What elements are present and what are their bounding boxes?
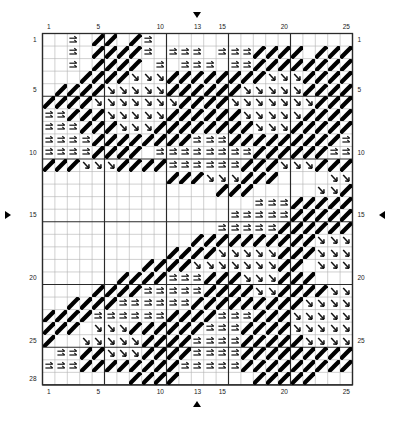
thick-diagonal-bar-symbol: [328, 222, 340, 235]
thick-diagonal-bar-symbol: [191, 322, 203, 335]
diagonal-down-right-arrow-symbol: [216, 172, 228, 185]
diagonal-down-right-arrow-symbol: [229, 172, 241, 185]
thick-diagonal-bar-symbol: [204, 285, 216, 298]
row-label-left: 25: [21, 338, 37, 345]
diagonal-down-right-arrow-symbol: [117, 347, 129, 360]
col-label-bottom: 1: [41, 389, 57, 396]
thick-diagonal-bar-symbol: [67, 84, 79, 97]
thick-diagonal-bar-symbol: [80, 347, 92, 360]
thick-diagonal-bar-symbol: [291, 347, 303, 360]
row-label-right: 10: [358, 150, 374, 157]
thick-diagonal-bar-symbol: [253, 360, 265, 373]
double-right-arrow-symbol: [154, 310, 166, 323]
diagonal-down-right-arrow-symbol: [340, 285, 352, 298]
thick-diagonal-bar-symbol: [67, 322, 79, 335]
thick-diagonal-bar-symbol: [241, 335, 253, 348]
thick-diagonal-bar-symbol: [278, 247, 290, 260]
double-right-arrow-symbol: [216, 335, 228, 348]
thick-diagonal-bar-symbol: [315, 222, 327, 235]
diagonal-down-right-arrow-symbol: [253, 96, 265, 109]
double-right-arrow-symbol: [117, 297, 129, 310]
double-right-arrow-symbol: [179, 285, 191, 298]
thick-diagonal-bar-symbol: [105, 297, 117, 310]
thick-diagonal-bar-symbol: [129, 285, 141, 298]
thick-diagonal-bar-symbol: [278, 146, 290, 159]
double-right-arrow-symbol: [55, 146, 67, 159]
thick-diagonal-bar-symbol: [253, 297, 265, 310]
thick-diagonal-bar-symbol: [303, 71, 315, 84]
thick-diagonal-bar-symbol: [129, 372, 141, 385]
thick-diagonal-bar-symbol: [80, 360, 92, 373]
diagonal-down-right-arrow-symbol: [253, 121, 265, 134]
thick-diagonal-bar-symbol: [167, 134, 179, 147]
double-right-arrow-symbol: [43, 109, 55, 122]
thick-diagonal-bar-symbol: [241, 347, 253, 360]
diagonal-down-right-arrow-symbol: [142, 84, 154, 97]
thick-diagonal-bar-symbol: [117, 146, 129, 159]
col-label-top: 13: [190, 24, 206, 31]
thick-diagonal-bar-symbol: [105, 34, 117, 47]
thick-diagonal-bar-symbol: [291, 297, 303, 310]
double-right-arrow-symbol: [191, 59, 203, 72]
double-right-arrow-symbol: [229, 335, 241, 348]
thick-diagonal-bar-symbol: [291, 247, 303, 260]
diagonal-down-right-arrow-symbol: [229, 96, 241, 109]
thick-diagonal-bar-symbol: [340, 347, 352, 360]
thick-diagonal-bar-symbol: [241, 360, 253, 373]
double-right-arrow-symbol: [179, 59, 191, 72]
thick-diagonal-bar-symbol: [117, 71, 129, 84]
diagonal-down-right-arrow-symbol: [266, 84, 278, 97]
diagonal-down-right-arrow-symbol: [117, 335, 129, 348]
thick-diagonal-bar-symbol: [241, 297, 253, 310]
thick-diagonal-bar-symbol: [105, 71, 117, 84]
double-right-arrow-symbol: [55, 134, 67, 147]
diagonal-down-right-arrow-symbol: [129, 71, 141, 84]
row-label-right: 15: [358, 212, 374, 219]
thick-diagonal-bar-symbol: [266, 360, 278, 373]
thick-diagonal-bar-symbol: [55, 322, 67, 335]
thick-diagonal-bar-symbol: [315, 209, 327, 222]
diagonal-down-right-arrow-symbol: [266, 272, 278, 285]
thick-diagonal-bar-symbol: [303, 84, 315, 97]
double-right-arrow-symbol: [191, 272, 203, 285]
thick-diagonal-bar-symbol: [179, 121, 191, 134]
diagonal-down-right-arrow-symbol: [204, 172, 216, 185]
diagonal-down-right-arrow-symbol: [291, 71, 303, 84]
thick-diagonal-bar-symbol: [253, 146, 265, 159]
thick-diagonal-bar-symbol: [291, 59, 303, 72]
diagonal-down-right-arrow-symbol: [154, 84, 166, 97]
thick-diagonal-bar-symbol: [80, 310, 92, 323]
diagonal-down-right-arrow-symbol: [154, 109, 166, 122]
thick-diagonal-bar-symbol: [328, 84, 340, 97]
thick-diagonal-bar-symbol: [179, 96, 191, 109]
thick-diagonal-bar-symbol: [167, 121, 179, 134]
thick-diagonal-bar-symbol: [92, 347, 104, 360]
double-right-arrow-symbol: [204, 322, 216, 335]
diagonal-down-right-arrow-symbol: [291, 322, 303, 335]
thick-diagonal-bar-symbol: [129, 272, 141, 285]
thick-diagonal-bar-symbol: [291, 209, 303, 222]
double-right-arrow-symbol: [204, 347, 216, 360]
thick-diagonal-bar-symbol: [328, 121, 340, 134]
double-right-arrow-symbol: [216, 347, 228, 360]
diagonal-down-right-arrow-symbol: [291, 96, 303, 109]
diagonal-down-right-arrow-symbol: [129, 84, 141, 97]
thick-diagonal-bar-symbol: [129, 322, 141, 335]
thick-diagonal-bar-symbol: [340, 197, 352, 210]
diagonal-down-right-arrow-symbol: [129, 96, 141, 109]
thick-diagonal-bar-symbol: [167, 172, 179, 185]
thick-diagonal-bar-symbol: [291, 121, 303, 134]
thick-diagonal-bar-symbol: [291, 134, 303, 147]
diagonal-down-right-arrow-symbol: [204, 259, 216, 272]
bottom-center-marker: [193, 401, 201, 407]
thick-diagonal-bar-symbol: [204, 234, 216, 247]
thick-diagonal-bar-symbol: [340, 360, 352, 373]
thick-diagonal-bar-symbol: [315, 360, 327, 373]
diagonal-down-right-arrow-symbol: [253, 259, 265, 272]
thick-diagonal-bar-symbol: [253, 59, 265, 72]
thick-diagonal-bar-symbol: [291, 234, 303, 247]
thick-diagonal-bar-symbol: [328, 46, 340, 59]
thick-diagonal-bar-symbol: [92, 121, 104, 134]
thick-diagonal-bar-symbol: [340, 209, 352, 222]
double-right-arrow-symbol: [154, 59, 166, 72]
